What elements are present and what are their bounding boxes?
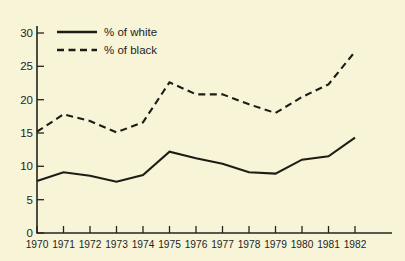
x-axis-labels: 1970 1971 1972 1973 1974 1975 1976 1977 …: [26, 239, 367, 250]
legend-label-white: % of white: [104, 26, 157, 38]
x-tick-label: 1974: [132, 239, 155, 250]
y-tick-label: 20: [20, 94, 33, 106]
x-tick-label: 1972: [79, 239, 102, 250]
legend-label-black: % of black: [104, 44, 157, 56]
x-tick-label: 1978: [238, 239, 261, 250]
y-tick-label: 10: [20, 160, 33, 172]
x-tick-label: 1973: [105, 239, 128, 250]
chart-canvas: 0 5 10 15 20 25 30 1970 1971: [0, 0, 405, 261]
y-tick-label: 5: [27, 194, 33, 206]
x-tick-label: 1981: [317, 239, 340, 250]
x-tick-label: 1971: [52, 239, 75, 250]
y-tick-label: 30: [20, 27, 33, 39]
series-line-white: [37, 138, 355, 182]
x-tick-label: 1980: [291, 239, 314, 250]
y-tick-label: 25: [20, 60, 33, 72]
x-tick-label: 1982: [344, 239, 367, 250]
y-tick-label: 15: [20, 127, 33, 139]
y-tick-label: 0: [27, 227, 33, 239]
series-line-black: [37, 52, 355, 133]
x-tick-label: 1976: [185, 239, 208, 250]
x-tick-label: 1975: [158, 239, 181, 250]
x-tick-label: 1979: [264, 239, 287, 250]
line-chart: 0 5 10 15 20 25 30 1970 1971: [0, 0, 405, 261]
x-tick-label: 1970: [26, 239, 49, 250]
x-axis-ticks: [37, 226, 355, 233]
y-axis-ticks: [37, 33, 44, 233]
chart-axes: [37, 26, 392, 233]
y-axis-labels: 0 5 10 15 20 25 30: [20, 27, 33, 239]
x-tick-label: 1977: [211, 239, 234, 250]
chart-legend: % of white % of black: [57, 26, 157, 56]
